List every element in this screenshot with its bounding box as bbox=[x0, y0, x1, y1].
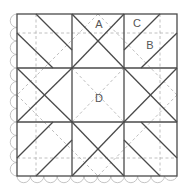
label-d: D bbox=[95, 93, 103, 104]
label-c: C bbox=[133, 18, 141, 29]
label-b: B bbox=[146, 40, 153, 51]
label-a: A bbox=[95, 19, 102, 30]
